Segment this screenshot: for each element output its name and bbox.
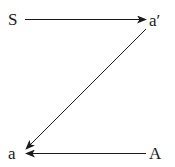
node-a: a [8,144,16,163]
node-S: S [8,10,17,29]
node-A: A [149,144,162,163]
diagram-canvas: S a′ a A [0,0,175,167]
arrow-a-prime-to-a [26,29,146,149]
node-a-prime: a′ [149,11,160,30]
